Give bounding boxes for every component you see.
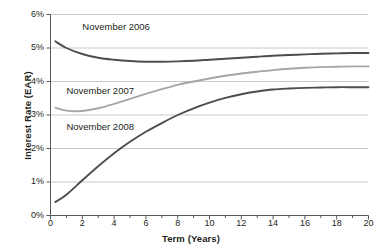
series-line-0 — [55, 41, 368, 61]
series-label-2: November 2008 — [66, 121, 134, 132]
gridlines — [51, 15, 369, 216]
y-axis-tick-marks — [47, 15, 51, 216]
plot-area: November 2006November 2007November 2008 — [0, 0, 382, 251]
series-label-0: November 2006 — [82, 21, 150, 32]
series-label-1: November 2007 — [66, 85, 134, 96]
series-line-2 — [55, 87, 368, 202]
yield-curve-chart: Interest Rate (EAR) Term (Years) 0%1%2%3… — [0, 0, 382, 251]
